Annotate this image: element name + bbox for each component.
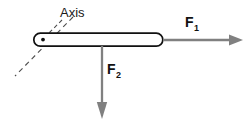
force-f2-label: F	[107, 61, 116, 77]
force-diagram-canvas: Axis F 1 F 2	[0, 0, 249, 128]
axis-label: Axis	[60, 5, 85, 20]
rigid-rod	[34, 33, 163, 46]
force-f1-label-subscript: 1	[194, 23, 199, 33]
pivot-point-icon	[41, 38, 45, 42]
force-f1-label: F	[185, 14, 194, 30]
force-f1-arrow-head	[229, 35, 243, 46]
force-f2-label-subscript: 2	[116, 70, 121, 80]
force-diagram-svg: Axis F 1 F 2	[0, 0, 249, 128]
force-f2-arrow-head	[97, 102, 107, 119]
